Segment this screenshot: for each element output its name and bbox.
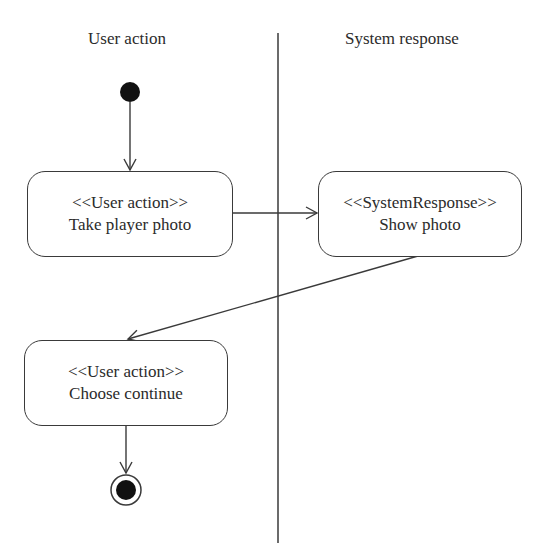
lane-title-system: System response	[345, 29, 459, 49]
edge-show-photo-to-choose-continue	[128, 256, 418, 339]
final-node-core	[116, 480, 136, 500]
stereotype-label: <<User action>>	[72, 192, 188, 214]
lane-title-user: User action	[88, 29, 166, 49]
action-label: Choose continue	[69, 383, 183, 405]
action-label: Take player photo	[69, 214, 192, 236]
stereotype-label: <<User action>>	[68, 361, 184, 383]
action-take-player-photo: <<User action>> Take player photo	[27, 171, 233, 257]
action-label: Show photo	[379, 214, 461, 236]
initial-node	[120, 82, 140, 102]
action-show-photo: <<SystemResponse>> Show photo	[318, 171, 522, 257]
diagram-canvas	[0, 0, 545, 558]
action-choose-continue: <<User action>> Choose continue	[24, 340, 228, 426]
stereotype-label: <<SystemResponse>>	[343, 192, 497, 214]
